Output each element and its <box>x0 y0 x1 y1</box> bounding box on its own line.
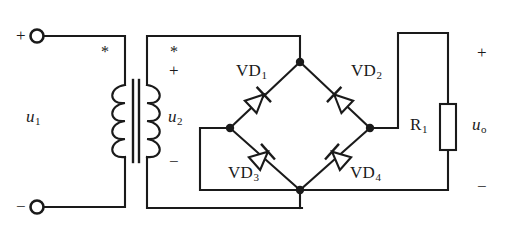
output-negative-sign: − <box>477 178 487 195</box>
label-r1-base: R <box>410 115 422 134</box>
input-negative-sign: − <box>16 198 26 215</box>
label-vd2: VD2 <box>351 62 382 81</box>
wire-primary-top <box>45 36 125 85</box>
label-u2-sub: 2 <box>177 115 183 127</box>
circuit-schematic-canvas <box>0 0 505 240</box>
secondary-positive-sign: + <box>169 62 179 79</box>
label-uo-base: u <box>472 115 481 134</box>
label-vd1-sub: 1 <box>261 69 267 81</box>
junction-dot-bridge-right <box>366 124 374 132</box>
label-vd3-base: VD <box>228 163 253 182</box>
junction-dot-bridge-left <box>226 124 234 132</box>
wire-load-bottom-return <box>395 150 448 190</box>
label-vd1-base: VD <box>236 61 261 80</box>
transformer-secondary-winding <box>147 85 160 157</box>
label-u1-sub: 1 <box>35 115 41 127</box>
circuit-diagram: + − u1 * * + − u2 VD1 VD2 VD3 VD4 R1 + −… <box>0 0 505 240</box>
label-u2: u2 <box>168 108 183 127</box>
terminal-input-negative <box>31 201 44 214</box>
label-r1-sub: 1 <box>422 123 428 135</box>
resistor-r1-body <box>440 104 456 150</box>
label-vd4: VD4 <box>350 164 381 183</box>
label-vd3-sub: 3 <box>253 171 259 183</box>
transformer-primary-dot-icon: * <box>101 44 109 60</box>
secondary-negative-sign: − <box>169 153 179 170</box>
label-vd4-base: VD <box>350 163 375 182</box>
label-uo: uo <box>472 116 487 135</box>
label-u2-base: u <box>168 107 177 126</box>
transformer-primary-winding <box>112 85 125 157</box>
label-vd2-sub: 2 <box>376 69 382 81</box>
label-vd4-sub: 4 <box>375 171 381 183</box>
transformer-secondary-dot-icon: * <box>170 44 178 60</box>
output-positive-sign: + <box>477 44 487 61</box>
label-r1: R1 <box>410 116 428 135</box>
label-u1-base: u <box>26 107 35 126</box>
junction-dot-bridge-top <box>296 58 304 66</box>
terminal-input-positive <box>31 30 44 43</box>
label-uo-sub: o <box>481 123 487 135</box>
junction-dot-bridge-bottom <box>296 186 304 194</box>
wire-primary-bottom <box>45 157 125 207</box>
label-vd1: VD1 <box>236 62 267 81</box>
input-positive-sign: + <box>16 27 26 44</box>
label-vd3: VD3 <box>228 164 259 183</box>
label-vd2-base: VD <box>351 61 376 80</box>
label-u1: u1 <box>26 108 41 127</box>
